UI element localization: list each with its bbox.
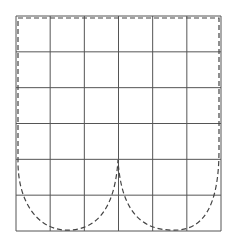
grid-diagram [0,0,234,249]
grid [16,16,221,231]
